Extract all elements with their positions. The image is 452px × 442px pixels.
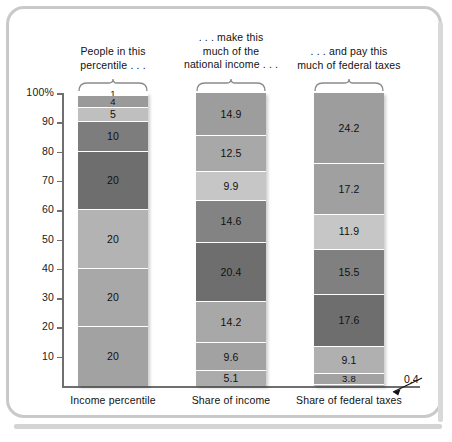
- bar-segment[interactable]: 4: [78, 96, 148, 108]
- bar-segment-value: 24.2: [338, 123, 359, 134]
- y-tick-100%: [57, 93, 63, 95]
- y-tick-label: 10: [16, 350, 54, 362]
- bar-segment-value: 20: [107, 234, 119, 245]
- y-tick-label: 90: [16, 115, 54, 127]
- y-tick-label: 60: [16, 203, 54, 215]
- y-tick-80: [57, 152, 63, 154]
- bar-segment[interactable]: 20: [78, 327, 148, 386]
- caption-income-percentile: People in thispercentile . . .: [53, 45, 173, 72]
- caption-line: . . . and pay this: [283, 45, 415, 59]
- bar-segment[interactable]: 14.2: [196, 302, 266, 343]
- caption-line: . . . make this: [171, 31, 291, 45]
- bar-segment-value: 9.6: [223, 352, 238, 363]
- x-axis-label-share-of-income: Share of income: [170, 394, 292, 406]
- bar-segment[interactable]: 20: [78, 152, 148, 211]
- y-tick-20: [57, 327, 63, 329]
- bar-segment-value: 9.1: [341, 355, 356, 366]
- y-tick-label: 40: [16, 262, 54, 274]
- x-axis-line: [62, 386, 420, 388]
- y-tick-label: 100%: [16, 86, 54, 98]
- bar-segment-value: 14.9: [220, 109, 241, 120]
- bar-segment[interactable]: 17.2: [314, 164, 384, 215]
- bar-segment-value: 5: [110, 109, 116, 120]
- bar-segment[interactable]: 14.9: [196, 93, 266, 136]
- bar-segment-value: 20.4: [220, 267, 241, 278]
- bar-body: 14.912.59.914.620.414.29.65.1: [196, 93, 266, 386]
- y-tick-90: [57, 122, 63, 124]
- y-tick-label: 80: [16, 145, 54, 157]
- bar-segment[interactable]: 9.1: [314, 347, 384, 374]
- bar-segment-value: 12.5: [220, 148, 241, 159]
- bar-segment[interactable]: [314, 385, 384, 386]
- bar-segment-value: 4: [110, 97, 115, 107]
- bar-segment[interactable]: 5.1: [196, 371, 266, 386]
- caption-line: much of federal taxes: [283, 59, 415, 73]
- y-tick-label: 20: [16, 320, 54, 332]
- y-tick-label: 30: [16, 291, 54, 303]
- y-tick-40: [57, 269, 63, 271]
- stacked-bar-share-of-income[interactable]: 14.912.59.914.620.414.29.65.1: [196, 93, 266, 386]
- y-tick-10: [57, 357, 63, 359]
- bar-segment[interactable]: 11.9: [314, 215, 384, 250]
- caption-share-of-income: . . . make thismuch of thenational incom…: [171, 31, 291, 72]
- bar-segment[interactable]: 15.5: [314, 250, 384, 296]
- bar-segment[interactable]: 17.6: [314, 295, 384, 347]
- brace-share-of-income: [195, 78, 267, 91]
- chart-plot-area: 100%908070605040302010 People in thisper…: [0, 0, 452, 442]
- caption-line: People in this: [53, 45, 173, 59]
- caption-line: national income . . .: [171, 58, 291, 72]
- y-tick-50: [57, 240, 63, 242]
- bar-body: 24.217.211.915.517.69.13.8: [314, 93, 384, 386]
- caption-share-of-federal-taxes: . . . and pay thismuch of federal taxes: [283, 45, 415, 72]
- bar-segment-value: 17.2: [338, 184, 359, 195]
- bar-segment[interactable]: 12.5: [196, 136, 266, 172]
- bar-segment[interactable]: 9.9: [196, 172, 266, 201]
- bar-segment[interactable]: 14.6: [196, 201, 266, 243]
- bar-segment-value: 15.5: [338, 267, 359, 278]
- bar-segment[interactable]: 20: [78, 210, 148, 269]
- x-axis-label-income-percentile: Income percentile: [48, 394, 178, 406]
- bar-segment-value: 20: [107, 351, 119, 362]
- bar-segment-value: 20: [107, 292, 119, 303]
- bar-segment[interactable]: 24.2: [314, 93, 384, 164]
- stacked-bar-share-of-federal-taxes[interactable]: 24.217.211.915.517.69.13.8: [314, 93, 384, 386]
- bar-segment-value: 20: [107, 175, 119, 186]
- y-tick-label: 50: [16, 233, 54, 245]
- bar-segment-value: 14.2: [220, 317, 241, 328]
- bar-segment[interactable]: 20.4: [196, 243, 266, 302]
- bar-segment-value: 14.6: [220, 216, 241, 227]
- bar-segment-value: 3.8: [342, 374, 356, 384]
- caption-line: percentile . . .: [53, 59, 173, 73]
- bar-segment-value: 11.9: [339, 226, 359, 237]
- y-tick-60: [57, 210, 63, 212]
- bar-segment[interactable]: 3.8: [314, 374, 384, 385]
- bar-segment[interactable]: 10: [78, 122, 148, 151]
- bar-body: 1451020202020: [78, 93, 148, 386]
- y-tick-30: [57, 298, 63, 300]
- bar-segment-value: 10: [107, 131, 119, 142]
- caption-line: much of the: [171, 45, 291, 59]
- y-tick-70: [57, 181, 63, 183]
- callout-value-0-4: 0.4: [404, 373, 419, 385]
- bar-segment-value: 5.1: [223, 373, 238, 384]
- bar-segment[interactable]: 5: [78, 108, 148, 123]
- bar-segment[interactable]: 20: [78, 269, 148, 328]
- bar-segment-value: 17.6: [338, 315, 359, 326]
- stacked-bar-income-percentile[interactable]: 1451020202020: [78, 93, 148, 386]
- bar-segment[interactable]: 9.6: [196, 343, 266, 371]
- bar-segment-value: 9.9: [223, 181, 238, 192]
- y-tick-label: 70: [16, 174, 54, 186]
- brace-share-of-federal-taxes: [313, 78, 385, 91]
